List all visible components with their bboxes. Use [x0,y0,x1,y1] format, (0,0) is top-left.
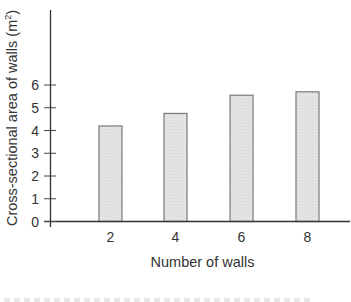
bar-6 [230,95,253,221]
y-axis-label: Cross-sectional area of walls (m2) [3,0,21,238]
clipped-caption-marks [4,298,314,302]
y-axis-label-superscript: 2 [3,15,13,20]
bar-4 [164,113,187,221]
y-tick-label: 3 [27,146,39,160]
bars [99,92,319,222]
bar-2 [99,126,122,222]
bar-8 [296,92,319,222]
y-tick-label: 1 [27,192,39,206]
y-tick-label: 6 [27,78,39,92]
y-tick-label: 2 [27,169,39,183]
y-tick-label: 5 [27,101,39,115]
y-tick-label: 0 [27,215,39,229]
y-axis-label-close: ) [4,10,20,15]
clipped-caption [4,298,314,302]
y-tick-label: 4 [27,124,39,138]
bar-chart: 0123456 2468 Cross-sectional area of wal… [0,0,351,302]
x-tick-label: 2 [101,230,121,244]
y-axis-label-text: Cross-sectional area of walls (m [4,20,20,226]
x-axis-label: Number of walls [130,254,275,270]
x-tick-label: 8 [298,230,318,244]
x-tick-label: 4 [166,230,186,244]
x-tick-label: 6 [232,230,252,244]
